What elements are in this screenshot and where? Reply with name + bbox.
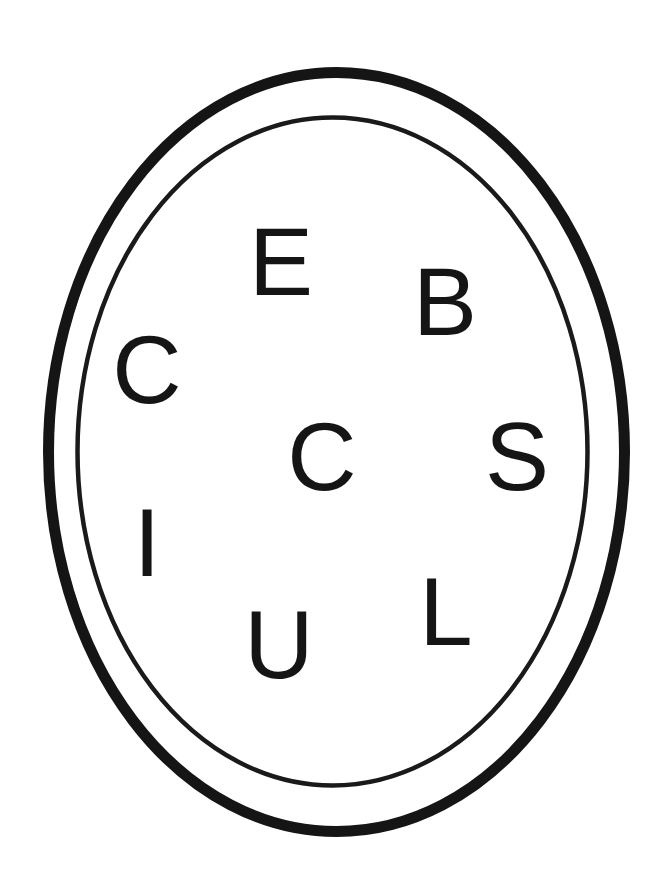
letter-b: B	[413, 248, 477, 355]
letter-l: L	[419, 558, 472, 665]
letter-s: S	[485, 403, 549, 510]
letter-u: U	[244, 591, 313, 698]
letter-oval-diagram: E B C C S I U L	[0, 0, 666, 884]
letter-c-center: C	[287, 403, 356, 510]
letter-e: E	[249, 208, 313, 315]
letter-i: I	[134, 489, 161, 596]
letter-c-left: C	[112, 316, 181, 423]
